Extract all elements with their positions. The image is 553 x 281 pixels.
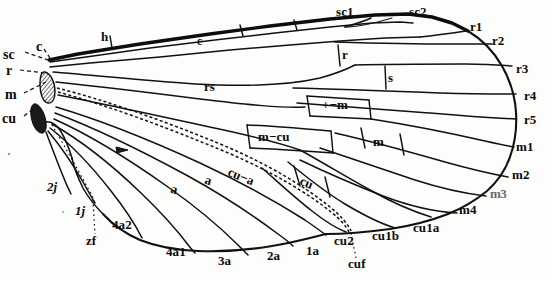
label-m2: m2 bbox=[512, 168, 530, 181]
cell-label-m: m bbox=[373, 135, 384, 148]
label-cuf: cuf bbox=[348, 257, 366, 270]
cubitus-group bbox=[58, 95, 431, 232]
wing-venation-figure: sc c r m cu h sc1 sc2 r1 r2 r3 r4 r5 m1 … bbox=[0, 0, 553, 281]
cell-label-rs: rs bbox=[204, 80, 215, 93]
label-2a: 2a bbox=[267, 249, 280, 262]
label-cu2: cu2 bbox=[334, 234, 354, 247]
cell-label-r: r bbox=[342, 48, 348, 61]
label-r2: r2 bbox=[492, 34, 504, 47]
basal-sclerite-lower bbox=[31, 104, 47, 133]
r-m-bar bbox=[310, 116, 371, 119]
basal-sclerite-upper bbox=[40, 72, 55, 103]
label-r5: r5 bbox=[524, 113, 536, 126]
label-4a2: 4a2 bbox=[112, 218, 132, 231]
label-2j: 2j bbox=[47, 180, 57, 193]
leader-c bbox=[44, 49, 50, 58]
label-m-base: m bbox=[5, 88, 17, 102]
anal-vein-arrowhead bbox=[116, 147, 128, 153]
fold-lines-group bbox=[52, 88, 356, 258]
print-speck bbox=[8, 153, 10, 155]
m3-vein bbox=[320, 148, 486, 196]
label-m3: m3 bbox=[490, 187, 506, 200]
r4-vein bbox=[293, 88, 516, 94]
label-r-base: r bbox=[6, 64, 12, 78]
cell-label-s: s bbox=[388, 71, 393, 84]
cell-label-r-m: +−m bbox=[322, 98, 348, 111]
label-r3: r3 bbox=[516, 62, 528, 75]
label-1j: 1j bbox=[75, 204, 85, 217]
label-r1: r1 bbox=[470, 20, 482, 33]
label-zf: zf bbox=[86, 234, 96, 247]
cell-label-m-cu: m−cu bbox=[258, 130, 290, 143]
m-cu-crossvein-right bbox=[331, 131, 333, 153]
r3-vein bbox=[355, 64, 512, 66]
humeral-crossvein-h bbox=[110, 36, 112, 48]
r-m-crossvein bbox=[307, 96, 310, 116]
label-sc-base: sc bbox=[3, 48, 15, 62]
label-1a: 1a bbox=[306, 244, 319, 257]
label-cu-base: cu bbox=[2, 112, 16, 126]
cubital-fold-line bbox=[57, 88, 351, 231]
wing-apex-margin bbox=[326, 31, 516, 234]
cu-crossvein-right bbox=[325, 177, 330, 197]
print-speck bbox=[62, 211, 64, 213]
s-crossvein bbox=[385, 66, 386, 89]
media-stem bbox=[56, 82, 305, 107]
label-3a: 3a bbox=[218, 254, 231, 267]
cell-label-c: c bbox=[197, 36, 202, 48]
media-group bbox=[56, 82, 514, 213]
label-c-base: c bbox=[36, 40, 42, 54]
anal-1a-vein bbox=[56, 107, 326, 235]
label-sc1: sc1 bbox=[336, 5, 354, 18]
label-h: h bbox=[101, 30, 108, 43]
r1-vein bbox=[420, 31, 466, 37]
m-crossvein-right bbox=[400, 134, 404, 155]
cu1a-vein bbox=[300, 150, 431, 217]
leader-r bbox=[20, 70, 44, 73]
label-cu1a: cu1a bbox=[413, 221, 439, 234]
r2-vein bbox=[335, 42, 492, 44]
label-4a1: 4a1 bbox=[166, 245, 186, 258]
label-m1: m1 bbox=[516, 140, 534, 153]
r-m-crossvein-right bbox=[369, 100, 371, 119]
r-crossvein bbox=[338, 45, 340, 66]
label-m4: m4 bbox=[459, 203, 477, 216]
label-cu1b: cu1b bbox=[372, 229, 399, 242]
m1-vein bbox=[371, 119, 514, 147]
label-r4: r4 bbox=[524, 89, 536, 102]
label-sc2: sc2 bbox=[409, 5, 427, 18]
m-crossvein-left bbox=[361, 128, 365, 148]
